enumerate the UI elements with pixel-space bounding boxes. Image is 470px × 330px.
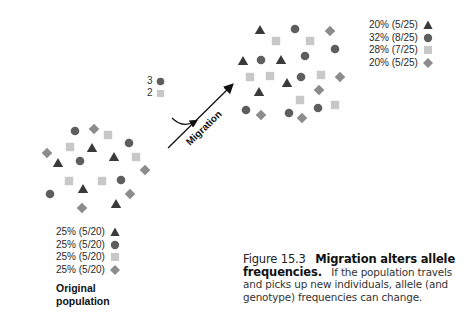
legend-row-diamond: 20% (5/25)	[369, 57, 433, 70]
triangle-icon	[111, 199, 121, 208]
square-icon	[246, 73, 254, 81]
legend-label: 25% (5/20)	[56, 251, 105, 264]
diamond-icon	[140, 165, 151, 176]
circle-icon	[110, 240, 120, 250]
new-population-legend: 20% (5/25) 32% (8/25) 28% (7/25) 20% (5/…	[369, 19, 433, 69]
triangle-icon	[109, 152, 119, 161]
legend-row-circle: 32% (8/25)	[369, 32, 433, 45]
circle-icon	[242, 106, 251, 115]
legend-row-diamond: 25% (5/20)	[56, 264, 120, 277]
circle-icon	[423, 33, 433, 43]
diamond-icon	[314, 85, 325, 96]
legend-label: 28% (7/25)	[369, 44, 418, 57]
triangle-icon	[110, 227, 120, 237]
circle-icon	[125, 139, 134, 148]
circle-icon	[71, 127, 80, 136]
legend-label: 25% (5/20)	[56, 239, 105, 252]
diamond-icon	[335, 72, 346, 83]
legend-row-triangle: 25% (5/20)	[56, 226, 120, 239]
square-icon	[331, 101, 339, 109]
square-icon	[132, 153, 140, 161]
legend-label: 20% (5/25)	[369, 19, 418, 32]
square-icon	[98, 177, 106, 185]
circle-icon	[285, 109, 294, 118]
original-population-title: Original population	[56, 282, 110, 308]
legend-label: 25% (5/20)	[56, 264, 105, 277]
circle-icon	[331, 45, 340, 54]
triangle-icon	[238, 56, 248, 65]
figure-caption: Figure 15.3 Migration alters allele freq…	[243, 253, 469, 303]
square-icon	[296, 96, 304, 104]
circle-icon	[156, 77, 165, 86]
square-icon	[306, 37, 314, 45]
triangle-icon	[254, 87, 264, 96]
migrants-row-circle: 3	[147, 75, 165, 87]
circle-icon	[301, 52, 310, 61]
title-line: population	[56, 295, 110, 308]
circle-icon	[297, 73, 306, 82]
legend-label: 25% (5/20)	[56, 226, 105, 239]
triangle-icon	[255, 25, 265, 34]
circle-icon	[291, 25, 300, 34]
square-icon	[104, 131, 112, 139]
original-population-legend: 25% (5/20) 25% (5/20) 25% (5/20) 25% (5/…	[56, 226, 120, 276]
legend-row-circle: 25% (5/20)	[56, 239, 120, 252]
title-line: Original	[56, 282, 110, 295]
square-icon	[66, 143, 74, 151]
diamond-icon	[77, 203, 88, 214]
square-icon	[272, 37, 280, 45]
diamond-icon	[256, 110, 267, 121]
diamond-icon	[89, 124, 100, 135]
migrants-row-square: 2	[147, 87, 165, 99]
legend-label: 32% (8/25)	[369, 32, 418, 45]
legend-row-square: 28% (7/25)	[369, 44, 433, 57]
new-population-individuals	[238, 25, 345, 124]
legend-label: 20% (5/25)	[369, 57, 418, 70]
diamond-icon	[42, 148, 53, 159]
square-icon	[317, 71, 325, 79]
diamond-icon	[110, 265, 120, 275]
triangle-icon	[87, 143, 97, 152]
triangle-icon	[53, 158, 63, 167]
migrants-legend: 3 2	[147, 75, 165, 99]
circle-icon	[257, 56, 266, 65]
diamond-icon	[297, 113, 308, 124]
square-icon	[156, 89, 165, 98]
legend-row-square: 25% (5/20)	[56, 251, 120, 264]
circle-icon	[46, 190, 55, 199]
diamond-icon	[325, 26, 336, 37]
migration-label: Migration	[184, 108, 224, 147]
triangle-icon	[78, 184, 88, 193]
original-population-individuals	[42, 124, 151, 214]
migrants-join-arrow	[172, 118, 196, 124]
migrant-count: 3	[147, 75, 153, 87]
square-icon	[110, 252, 120, 262]
square-icon	[266, 72, 274, 80]
circle-icon	[314, 104, 323, 113]
circle-icon	[76, 157, 85, 166]
diamond-icon	[125, 189, 136, 200]
square-icon	[423, 45, 433, 55]
legend-row-triangle: 20% (5/25)	[369, 19, 433, 32]
triangle-icon	[423, 20, 433, 30]
square-icon	[65, 177, 73, 185]
diamond-icon	[423, 58, 433, 68]
migrant-count: 2	[147, 87, 153, 99]
triangle-icon	[282, 78, 292, 87]
triangle-icon	[276, 55, 286, 64]
circle-icon	[117, 176, 126, 185]
